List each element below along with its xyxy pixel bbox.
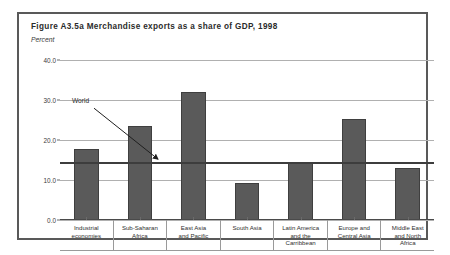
bar <box>288 162 313 220</box>
bar <box>395 168 420 220</box>
category-axis-cell: Latin Americaand theCarribbean <box>273 220 327 250</box>
category-axis-cell: South Asia <box>220 220 274 250</box>
x-axis-tick-mark <box>408 217 409 220</box>
category-axis-label: Industrial <box>74 224 99 232</box>
x-axis-tick-mark <box>247 217 248 220</box>
category-axis-label: South Asia <box>232 224 261 232</box>
category-axis-cell: Industrialeconomies <box>60 220 113 250</box>
y-axis-tick-label: 30.0 <box>44 97 56 104</box>
y-axis-tick-label: 10.0 <box>44 177 56 184</box>
category-axis-cell: Europe andCentral Asia <box>327 220 381 250</box>
figure-title: Figure A3.5a Merchandise exports as a sh… <box>31 22 278 31</box>
bar <box>128 126 153 220</box>
x-axis-tick-mark <box>193 217 194 220</box>
y-axis-tick-label: 0.0 <box>47 217 56 224</box>
category-axis-label: Europe and <box>338 224 370 232</box>
bar <box>181 92 206 220</box>
category-axis-label: Africa <box>400 239 416 247</box>
x-axis-tick-mark <box>140 217 141 220</box>
y-axis-tick-label: 40.0 <box>44 57 56 64</box>
category-axis-label: economies <box>72 232 101 240</box>
x-axis-tick-mark <box>301 217 302 220</box>
category-axis: IndustrialeconomiesSub-SaharanAfricaEast… <box>60 220 434 250</box>
category-axis-label: Africa <box>132 232 148 240</box>
category-axis-label: Central Asia <box>338 232 371 240</box>
category-axis-label: East Asia <box>181 224 206 232</box>
category-axis-cell: Sub-SaharanAfrica <box>113 220 167 250</box>
bar <box>235 183 260 220</box>
y-axis-unit-label: Percent <box>31 36 54 43</box>
category-axis-cell: East Asiaand Pacific <box>166 220 220 250</box>
y-axis-tick-label: 20.0 <box>44 137 56 144</box>
x-axis-tick-mark <box>86 217 87 220</box>
category-axis-label: Sub-Saharan <box>122 224 158 232</box>
figure-frame: Figure A3.5a Merchandise exports as a sh… <box>17 12 428 240</box>
world-reference-line <box>60 162 434 164</box>
category-axis-label: and Pacific <box>179 232 209 240</box>
category-axis-cell: Middle Eastand NorthAfrica <box>380 220 434 250</box>
world-annotation-label: World <box>72 97 89 104</box>
category-axis-label: and the <box>290 232 310 240</box>
category-axis-bottom-border <box>60 250 434 251</box>
bars-layer <box>60 60 434 220</box>
category-axis-label: Middle East <box>392 224 424 232</box>
bar <box>342 119 367 220</box>
bar <box>74 149 99 220</box>
category-axis-label: Carribbean <box>286 239 316 247</box>
plot-area: 0.010.020.030.040.0 World <box>60 60 434 220</box>
x-axis-tick-mark <box>354 217 355 220</box>
category-axis-label: Latin America <box>282 224 319 232</box>
category-axis-label: and North <box>394 232 421 240</box>
